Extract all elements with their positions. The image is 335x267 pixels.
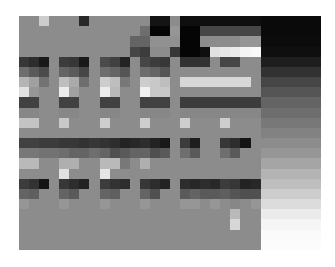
pixel-cell	[100, 118, 110, 128]
pixel-cell	[261, 179, 271, 189]
pixel-cell	[170, 26, 180, 36]
pixel-cell	[69, 230, 79, 240]
pixel-cell	[200, 87, 210, 97]
pixel-cell	[301, 57, 311, 67]
pixel-cell	[130, 87, 140, 97]
pixel-cell	[311, 67, 321, 77]
pixel-cell	[291, 199, 301, 209]
pixel-cell	[160, 189, 170, 199]
pixel-cell	[190, 240, 200, 250]
pixel-cell	[170, 16, 180, 26]
pixel-cell	[39, 169, 49, 179]
pixel-cell	[271, 87, 281, 97]
pixel-cell	[79, 36, 89, 46]
pixel-cell	[160, 230, 170, 240]
pixel-cell	[200, 26, 210, 36]
pixel-cell	[29, 67, 39, 77]
pixel-cell	[271, 67, 281, 77]
pixel-cell	[19, 179, 29, 189]
pixel-cell	[240, 36, 250, 46]
pixel-cell	[110, 240, 120, 250]
pixel-cell	[190, 16, 200, 26]
pixel-cell	[170, 169, 180, 179]
pixel-cell	[160, 158, 170, 168]
pixel-cell	[200, 209, 210, 219]
pixel-cell	[69, 57, 79, 67]
pixel-cell	[110, 57, 120, 67]
pixel-cell	[120, 16, 130, 26]
pixel-cell	[251, 148, 261, 158]
pixel-cell	[220, 179, 230, 189]
pixel-cell	[130, 169, 140, 179]
pixel-cell	[281, 87, 291, 97]
pixel-cell	[190, 148, 200, 158]
pixel-cell	[29, 199, 39, 209]
pixel-cell	[89, 108, 99, 118]
pixel-cell	[240, 230, 250, 240]
pixel-cell	[200, 16, 210, 26]
pixel-cell	[281, 189, 291, 199]
pixel-cell	[130, 57, 140, 67]
pixel-cell	[261, 169, 271, 179]
pixel-cell	[89, 138, 99, 148]
pixel-cell	[200, 128, 210, 138]
pixel-cell	[110, 169, 120, 179]
pixel-cell	[230, 118, 240, 128]
pixel-cell	[291, 189, 301, 199]
pixel-cell	[89, 209, 99, 219]
pixel-cell	[89, 97, 99, 107]
pixel-cell	[140, 128, 150, 138]
pixel-cell	[100, 138, 110, 148]
pixel-cell	[59, 138, 69, 148]
pixel-cell	[240, 189, 250, 199]
pixel-cell	[301, 158, 311, 168]
pixel-cell	[170, 209, 180, 219]
pixel-cell	[261, 26, 271, 36]
pixel-cell	[49, 16, 59, 26]
pixel-cell	[49, 209, 59, 219]
pixel-cell	[230, 108, 240, 118]
pixel-cell	[89, 169, 99, 179]
pixel-cell	[271, 158, 281, 168]
pixel-cell	[110, 36, 120, 46]
pixel-cell	[240, 158, 250, 168]
pixel-cell	[170, 189, 180, 199]
pixel-cell	[110, 179, 120, 189]
pixel-cell	[100, 179, 110, 189]
pixel-cell	[281, 219, 291, 229]
pixel-cell	[120, 230, 130, 240]
pixel-cell	[110, 158, 120, 168]
pixel-cell	[190, 209, 200, 219]
pixel-cell	[89, 148, 99, 158]
pixel-cell	[59, 77, 69, 87]
pixel-cell	[59, 179, 69, 189]
pixel-cell	[100, 169, 110, 179]
pixel-cell	[180, 158, 190, 168]
pixel-cell	[79, 57, 89, 67]
pixel-cell	[79, 108, 89, 118]
pixel-cell	[150, 148, 160, 158]
pixel-cell	[271, 169, 281, 179]
pixel-cell	[39, 87, 49, 97]
pixel-cell	[311, 108, 321, 118]
pixel-cell	[271, 148, 281, 158]
pixel-cell	[220, 148, 230, 158]
pixel-cell	[271, 230, 281, 240]
pixel-cell	[100, 77, 110, 87]
pixel-cell	[160, 87, 170, 97]
pixel-cell	[140, 108, 150, 118]
pixel-cell	[140, 138, 150, 148]
pixel-cell	[230, 189, 240, 199]
pixel-cell	[190, 179, 200, 189]
pixel-cell	[59, 97, 69, 107]
pixel-cell	[230, 169, 240, 179]
pixel-cell	[79, 118, 89, 128]
pixel-cell	[110, 209, 120, 219]
pixel-cell	[291, 47, 301, 57]
pixel-cell	[271, 108, 281, 118]
pixel-cell	[251, 219, 261, 229]
pixel-cell	[69, 240, 79, 250]
pixel-cell	[89, 118, 99, 128]
pixel-cell	[120, 87, 130, 97]
pixel-cell	[271, 128, 281, 138]
